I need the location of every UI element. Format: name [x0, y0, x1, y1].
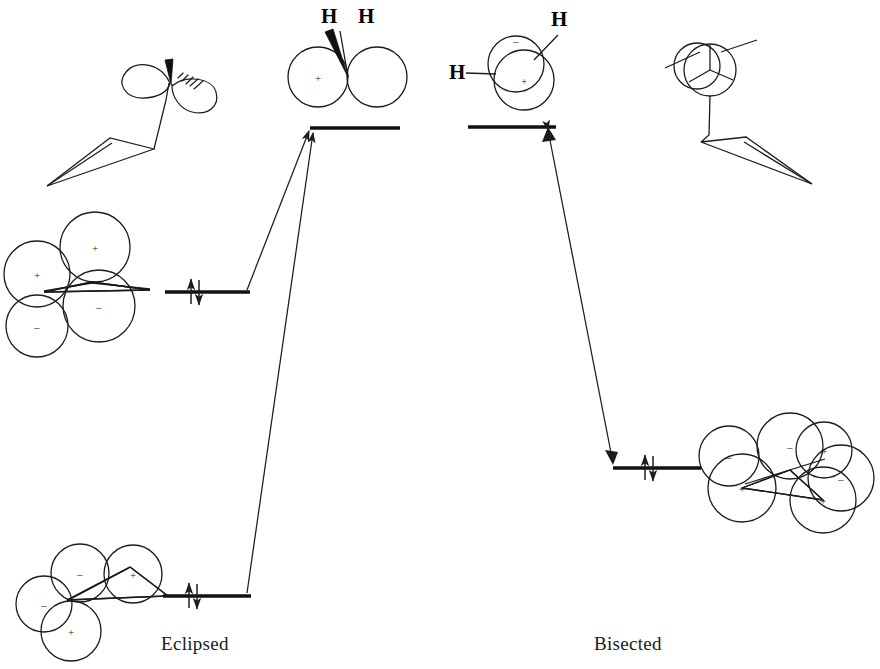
bisected-ts-orbital-signs: – +: [512, 35, 527, 87]
p-orbital-hash-bond: [178, 73, 203, 89]
arrow-eclipsed-upper-to-ts: [247, 131, 309, 290]
transition-arrows: [247, 130, 613, 593]
orbital-sign-plus: +: [34, 269, 40, 281]
diagram-vector-layer: + + – – – + – +: [0, 0, 880, 669]
arrow-bisected-to-ts: [548, 130, 613, 463]
structure-cyclopropyl-p-orbital: [47, 65, 217, 186]
bisected-mo-signs: – + – + – +: [725, 441, 844, 507]
structure-eclipsed-ts-orbital: [288, 31, 407, 107]
energy-levels: [163, 127, 701, 596]
eclipsed-ts-orbital-signs: +: [315, 72, 321, 84]
orbital-sign-minus: –: [512, 35, 519, 47]
orbital-sign-plus: +: [92, 242, 98, 254]
structure-bisected-ts-orbital: [466, 35, 558, 110]
orbital-sign-plus: +: [68, 626, 74, 638]
orbital-sign-plus: +: [820, 495, 826, 507]
eclipsed-ts-wedge-bond: [325, 29, 348, 77]
orbital-sign-minus: –: [837, 473, 844, 485]
orbital-sign-minus: –: [33, 321, 40, 333]
orbital-sign-plus: +: [315, 72, 321, 84]
arrow-bisected-head: [605, 450, 618, 465]
orbital-sign-minus: –: [76, 568, 83, 580]
orbital-sign-plus: +: [739, 483, 745, 495]
state-label-bisected: Bisected: [594, 633, 662, 655]
arrow-ts-right-head: [542, 127, 556, 142]
orbital-sign-minus: –: [786, 441, 793, 453]
orbital-sign-minus: –: [725, 451, 732, 463]
h-atom-label-1: H: [321, 4, 337, 29]
arrow-eclipsed-lower-to-ts: [247, 133, 313, 593]
orbital-sign-plus: +: [821, 445, 827, 457]
state-label-eclipsed: Eclipsed: [161, 633, 229, 655]
structure-bisected-newman: [665, 40, 812, 184]
h-atom-label-4: H: [449, 60, 465, 85]
h-atom-label-3: H: [551, 7, 567, 32]
orbital-sign-minus: –: [40, 599, 47, 611]
orbital-sign-plus: +: [130, 569, 136, 581]
structure-eclipsed-mo-lower: [16, 544, 168, 661]
structure-eclipsed-mo-upper: [4, 212, 150, 357]
h-atom-label-2: H: [358, 4, 374, 29]
structure-bisected-mo: [699, 413, 874, 533]
energy-diagram-canvas: + + – – – + – +: [0, 0, 880, 669]
orbital-sign-minus: –: [95, 301, 102, 313]
orbital-sign-plus: +: [521, 75, 527, 87]
